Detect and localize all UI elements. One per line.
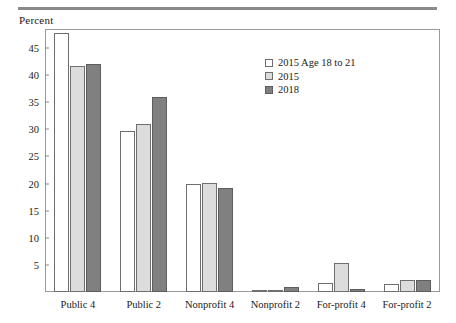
bar-group: Public 4 (45, 29, 111, 292)
y-axis-tick-label: 40 (0, 70, 45, 81)
bar[interactable] (318, 283, 333, 292)
legend-item-label: 2015 (278, 70, 299, 84)
y-axis-tick-label: 5 (0, 259, 45, 270)
bar[interactable] (152, 97, 167, 292)
top-rule (18, 7, 437, 10)
bar[interactable] (54, 33, 69, 292)
bar-group: Nonprofit 4 (177, 29, 243, 292)
bar-group: For-profit 2 (374, 29, 440, 292)
bar-group: Public 2 (111, 29, 177, 292)
legend-item[interactable]: 2015 (265, 70, 356, 84)
bar[interactable] (186, 184, 201, 292)
bar[interactable] (284, 287, 299, 292)
bar-group-bars (177, 29, 243, 292)
y-axis-tick-label: 45 (0, 42, 45, 53)
dark-gray-swatch (265, 86, 273, 94)
bar[interactable] (334, 263, 349, 292)
bar[interactable] (416, 280, 431, 292)
y-axis-tick-label: 10 (0, 232, 45, 243)
bar-group-bars (45, 29, 111, 292)
x-axis-category-label: Nonprofit 4 (185, 299, 234, 310)
x-axis-category-label: Public 2 (126, 299, 161, 310)
light-gray-swatch (265, 72, 273, 80)
x-axis-category-label: Nonprofit 2 (251, 299, 300, 310)
legend-item[interactable]: 2018 (265, 83, 356, 97)
x-axis-category-label: For-profit 4 (317, 299, 366, 310)
chart-legend: 2015 Age 18 to 2120152018 (265, 56, 356, 97)
x-axis-category-label: For-profit 2 (383, 299, 432, 310)
y-axis-tick-label: 30 (0, 124, 45, 135)
bar[interactable] (268, 290, 283, 292)
plot-area: 51015202530354045Public 4Public 2Nonprof… (45, 29, 440, 292)
legend-item-label: 2018 (278, 83, 299, 97)
chart-figure: Percent 51015202530354045Public 4Public … (0, 0, 456, 323)
bar[interactable] (136, 124, 151, 292)
y-axis-tick-label: 25 (0, 151, 45, 162)
y-axis-title: Percent (19, 14, 53, 27)
bar[interactable] (86, 64, 101, 292)
bar-group-bars (111, 29, 177, 292)
bar[interactable] (120, 131, 135, 292)
bar[interactable] (218, 188, 233, 292)
legend-item-label: 2015 Age 18 to 21 (278, 56, 356, 70)
y-axis-tick-label: 35 (0, 97, 45, 108)
bar[interactable] (252, 290, 267, 292)
y-axis-tick-label: 20 (0, 178, 45, 189)
bar[interactable] (384, 284, 399, 292)
bar[interactable] (202, 183, 217, 292)
bar[interactable] (70, 66, 85, 292)
bar[interactable] (350, 289, 365, 292)
bar[interactable] (400, 280, 415, 292)
x-axis-category-label: Public 4 (61, 299, 96, 310)
legend-item[interactable]: 2015 Age 18 to 21 (265, 56, 356, 70)
bar-group-bars (374, 29, 440, 292)
y-axis-tick-label: 15 (0, 205, 45, 216)
white-swatch (265, 59, 273, 67)
